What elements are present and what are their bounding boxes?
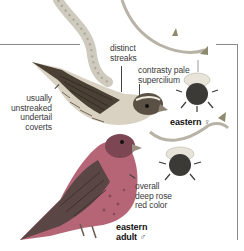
annotation-line: supercilium — [138, 76, 190, 86]
annotation-line: streaks — [110, 54, 137, 64]
annotation-undertail-coverts: usually unstreaked undertail coverts — [10, 94, 52, 132]
caption-eastern-female: eastern ♀ — [170, 117, 210, 127]
male-symbol-icon: ♂ — [139, 232, 146, 242]
annotation-line: coverts — [10, 123, 52, 133]
leader-distinct-streaks — [121, 66, 122, 92]
leader-supercilium — [139, 84, 140, 96]
female-symbol-icon: ♀ — [204, 117, 211, 127]
caption-text: eastern — [116, 222, 147, 232]
annotation-distinct-streaks: distinct streaks — [110, 44, 137, 63]
caption-text: adult — [116, 232, 137, 242]
caption-eastern-adult-male: eastern adult ♂ — [116, 222, 147, 242]
annotation-supercilium: contrasty pale supercilium — [138, 66, 190, 85]
annotation-deep-rose: overall deep rose red color — [135, 182, 172, 211]
field-guide-plate: distinct streaks contrasty pale supercil… — [0, 0, 244, 251]
caption-text: eastern — [170, 117, 201, 127]
annotation-line: red color — [135, 201, 172, 211]
